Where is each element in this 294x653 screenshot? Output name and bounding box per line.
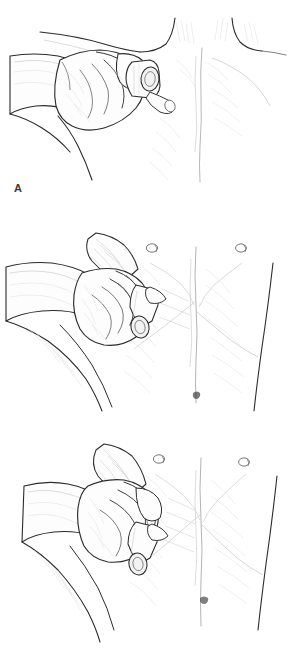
- torso-outline-c: [140, 458, 277, 630]
- nipple-left-b: [146, 244, 157, 252]
- umbilicus-b: [193, 392, 200, 400]
- torso-outline-b: [134, 247, 273, 411]
- hatching-chest-a: [150, 60, 242, 180]
- panel-a-artwork: [0, 0, 294, 215]
- panel-c: C: [0, 430, 294, 653]
- instrument-b: [129, 285, 166, 340]
- hatching-ribs-c: [164, 498, 195, 552]
- panel-c-artwork: [0, 430, 294, 653]
- panel-a: A: [0, 0, 294, 215]
- nipple-left-c: [153, 455, 164, 463]
- nipple-right-c: [239, 458, 250, 466]
- medical-figure: A: [0, 0, 294, 653]
- hatching-neck-a: [176, 18, 258, 44]
- panel-b-artwork: [0, 215, 294, 430]
- panel-b: B: [0, 215, 294, 430]
- nipple-right-b: [236, 244, 247, 252]
- instrument-c: [127, 522, 168, 577]
- umbilicus-c: [200, 597, 208, 605]
- panel-label-a: A: [14, 183, 22, 194]
